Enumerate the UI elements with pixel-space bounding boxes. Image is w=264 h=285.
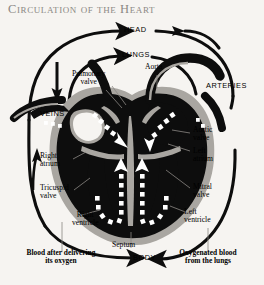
label-veins: VEINS bbox=[40, 110, 65, 118]
label-right-ventricle: Right ventricle bbox=[72, 211, 99, 227]
label-mitral-valve: Mitral valve bbox=[193, 183, 212, 199]
label-left-ventricle: Left ventricle bbox=[184, 208, 211, 224]
annotation-deoxygenated-blood: Blood after delivering its oxygen bbox=[6, 249, 116, 265]
label-right-atrium: Right atrium bbox=[40, 152, 60, 168]
label-left-atrium: Left atrium bbox=[193, 147, 213, 163]
pulmonary-inflow-arrow bbox=[52, 62, 63, 102]
head-inbound-arrowhead bbox=[172, 26, 219, 48]
label-aortic-valve: Aortic valve bbox=[193, 126, 212, 142]
label-aorta: Aorta bbox=[145, 63, 162, 71]
label-arteries: ARTERIES bbox=[206, 82, 247, 90]
label-head: HEAD bbox=[124, 26, 147, 34]
label-septum: Septum bbox=[112, 241, 135, 249]
label-tricuspid-valve: Tricuspid valve bbox=[40, 184, 69, 200]
annotation-oxygenated-blood: Oxygenated blood from the lungs bbox=[156, 249, 260, 265]
label-pulmonary-valve: Pulmonary valve bbox=[72, 70, 105, 86]
page-title: Circulation of the Heart bbox=[8, 2, 155, 17]
label-lungs: LUNGS bbox=[122, 51, 150, 59]
diagram-canvas: Circulation of the Heart HEAD LUNGS VEIN… bbox=[0, 0, 264, 285]
label-body: BODY bbox=[133, 254, 156, 262]
